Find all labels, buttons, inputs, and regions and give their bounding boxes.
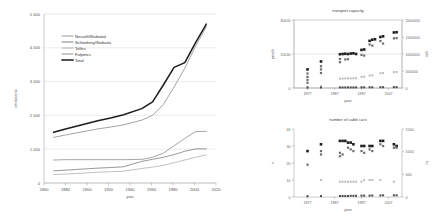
datapoint-1 bbox=[342, 153, 344, 155]
main-line-chart: 01 0002 0003 0004 0005 00018601880190019… bbox=[0, 0, 232, 219]
ytick-left-label: 30 bbox=[286, 145, 290, 149]
ytick-label: 2 000 bbox=[30, 113, 41, 118]
ytick-right-label: 1000 bbox=[406, 150, 414, 154]
datapoint-3 bbox=[339, 86, 341, 88]
datapoint-1 bbox=[393, 147, 395, 149]
datapoint-1 bbox=[320, 72, 322, 74]
datapoint-0 bbox=[393, 31, 396, 34]
datapoint-3 bbox=[339, 195, 341, 197]
datapoint-3 bbox=[350, 86, 352, 88]
datapoint-2 bbox=[369, 75, 371, 77]
figure-root: 01 0002 0003 0004 0005 00018601880190019… bbox=[0, 0, 448, 219]
xtick-label: 1977 bbox=[303, 201, 311, 205]
ytick-label: 3 000 bbox=[30, 79, 41, 84]
xtick-label: 1920 bbox=[104, 187, 114, 192]
xtick-label: 1997 bbox=[357, 201, 365, 205]
datapoint-2 bbox=[379, 179, 381, 181]
datapoint-1 bbox=[306, 76, 308, 78]
datapoint-2 bbox=[344, 77, 346, 79]
xtick-label: 1987 bbox=[330, 201, 338, 205]
datapoint-1 bbox=[320, 150, 322, 152]
datapoint-0 bbox=[382, 35, 385, 38]
xtick-label: 1980 bbox=[168, 187, 178, 192]
datapoint-0 bbox=[347, 141, 350, 144]
datapoint-0 bbox=[352, 52, 355, 55]
ytick-right-label: 0 bbox=[406, 87, 408, 91]
datapoint-2 bbox=[352, 77, 354, 79]
datapoint-3 bbox=[369, 86, 371, 88]
legend-label-3: Fulpmes bbox=[75, 52, 91, 57]
datapoint-1 bbox=[320, 153, 322, 155]
xtick-label: 1977 bbox=[303, 92, 311, 96]
datapoint-3 bbox=[347, 86, 349, 88]
datapoint-0 bbox=[368, 145, 371, 148]
datapoint-0 bbox=[393, 143, 396, 146]
datapoint-0 bbox=[379, 140, 382, 143]
number-of-cable-cars-panel: number of cable cars01020304005001000150… bbox=[232, 109, 448, 219]
xtick-label: 2020 bbox=[211, 187, 221, 192]
datapoint-3 bbox=[342, 86, 344, 88]
datapoint-1 bbox=[371, 150, 373, 152]
datapoint-0 bbox=[360, 145, 363, 148]
datapoint-1 bbox=[393, 37, 395, 39]
datapoint-2 bbox=[371, 179, 373, 181]
datapoint-3 bbox=[355, 195, 357, 197]
ytick-right-label: 1500 bbox=[406, 128, 414, 132]
datapoint-1 bbox=[306, 164, 308, 166]
datapoint-3 bbox=[363, 195, 365, 197]
datapoint-3 bbox=[307, 87, 309, 89]
datapoint-0 bbox=[371, 145, 374, 148]
datapoint-0 bbox=[347, 53, 350, 56]
datapoint-0 bbox=[368, 40, 371, 43]
datapoint-1 bbox=[350, 148, 352, 150]
datapoint-3 bbox=[371, 194, 373, 196]
datapoint-2 bbox=[347, 77, 349, 79]
xtick-label: 1997 bbox=[357, 92, 365, 96]
y-axis-label-left: n bbox=[271, 162, 275, 164]
datapoint-1 bbox=[320, 65, 322, 67]
datapoint-2 bbox=[347, 181, 349, 183]
xtick-label: 1987 bbox=[330, 92, 338, 96]
ytick-right-label: 1000000 bbox=[406, 53, 420, 57]
datapoint-2 bbox=[382, 72, 384, 74]
datapoint-1 bbox=[347, 147, 349, 149]
datapoint-2 bbox=[363, 76, 365, 78]
datapoint-1 bbox=[306, 79, 308, 81]
datapoint-3 bbox=[361, 86, 363, 88]
datapoint-1 bbox=[306, 82, 308, 84]
datapoint-0 bbox=[339, 140, 342, 143]
datapoint-0 bbox=[341, 53, 344, 56]
series-line-3 bbox=[54, 131, 207, 160]
xtick-label: 1900 bbox=[82, 187, 92, 192]
datapoint-0 bbox=[320, 60, 323, 63]
datapoint-1 bbox=[360, 150, 362, 152]
datapoint-3 bbox=[393, 86, 395, 88]
y-axis-label-right: m/h bbox=[425, 51, 429, 57]
main-line-chart-panel: 01 0002 0003 0004 0005 00018601880190019… bbox=[0, 0, 232, 219]
datapoint-3 bbox=[350, 195, 352, 197]
ytick-left-label: 0 bbox=[288, 196, 290, 200]
datapoint-0 bbox=[363, 48, 366, 51]
datapoint-1 bbox=[382, 42, 384, 44]
y-axis-label-left: pers/h bbox=[271, 49, 275, 60]
datapoint-2 bbox=[352, 181, 354, 183]
datapoint-2 bbox=[339, 181, 341, 183]
datapoint-3 bbox=[396, 86, 398, 88]
y-axis-label: inhabitants bbox=[14, 89, 18, 107]
datapoint-3 bbox=[352, 195, 354, 197]
xtick-label: 2000 bbox=[190, 187, 200, 192]
datapoint-3 bbox=[379, 86, 381, 88]
chart-title: number of cable cars bbox=[329, 117, 366, 122]
legend-label-2: Telfes bbox=[75, 46, 86, 51]
datapoint-2 bbox=[369, 179, 371, 181]
ytick-right-label: 500 bbox=[406, 173, 412, 177]
datapoint-0 bbox=[339, 53, 342, 56]
datapoint-1 bbox=[320, 68, 322, 70]
datapoint-3 bbox=[307, 195, 309, 197]
datapoint-2 bbox=[396, 71, 398, 73]
ytick-label: 4 000 bbox=[30, 45, 41, 50]
datapoint-3 bbox=[396, 194, 398, 196]
datapoint-3 bbox=[382, 86, 384, 88]
x-axis-label: year bbox=[344, 99, 352, 103]
datapoint-0 bbox=[344, 140, 347, 143]
